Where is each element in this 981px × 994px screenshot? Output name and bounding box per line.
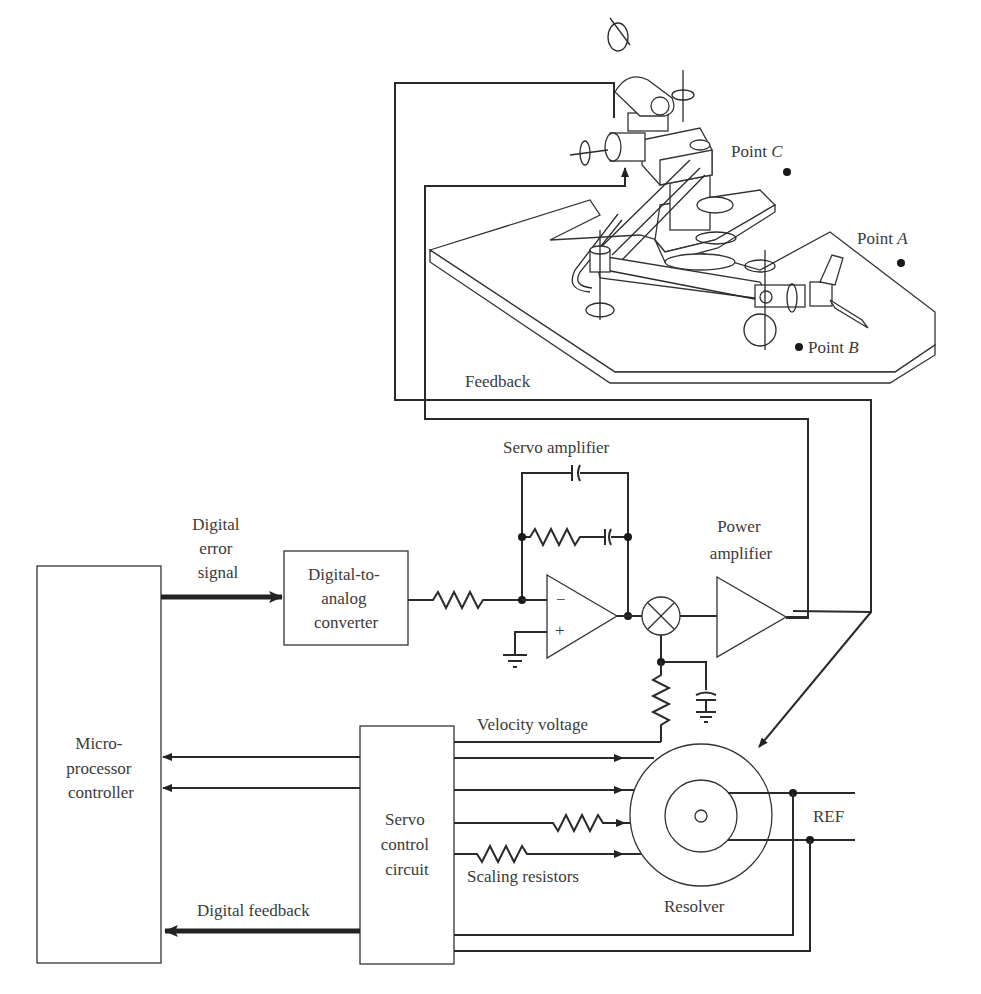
servo-control-diagram: Point C Point A Point B Feedback Micro- … xyxy=(0,0,981,994)
resolver-label: Resolver xyxy=(664,897,725,916)
feedback-wire-to-resolver xyxy=(759,612,871,747)
op-amp-triangle xyxy=(547,575,617,658)
ref-label: REF xyxy=(813,807,844,826)
digital-error-signal-label: Digital error signal xyxy=(192,515,243,582)
robot-arm-illustration xyxy=(430,18,935,383)
point-c-label: Point C xyxy=(731,142,783,161)
point-b-marker xyxy=(795,343,803,351)
digital-feedback-label: Digital feedback xyxy=(197,901,310,920)
power-amplifier-triangle xyxy=(717,577,786,657)
servo-control-label: Servo control circuit xyxy=(381,810,433,879)
scaling-resistors-label: Scaling resistors xyxy=(467,867,579,886)
point-b-label: Point B xyxy=(808,338,859,357)
servo-amplifier-label: Servo amplifier xyxy=(503,438,610,457)
resolver-icon xyxy=(630,744,772,886)
opamp-minus: − xyxy=(556,590,566,609)
velocity-voltage-label: Velocity voltage xyxy=(477,715,588,734)
robot-gripper xyxy=(810,282,832,306)
servo-amplifier-circuit xyxy=(408,465,643,667)
point-a-marker xyxy=(897,259,905,267)
point-a-label: Point A xyxy=(857,229,908,248)
opamp-plus: + xyxy=(555,621,565,640)
point-c-marker xyxy=(783,168,791,176)
power-amplifier-label: Power amplifier xyxy=(710,517,773,563)
summing-junction-icon xyxy=(642,597,680,635)
drive-wire-inner xyxy=(425,400,808,618)
microprocessor-label: Micro- processor controller xyxy=(66,734,135,802)
feedback-label: Feedback xyxy=(465,372,531,391)
